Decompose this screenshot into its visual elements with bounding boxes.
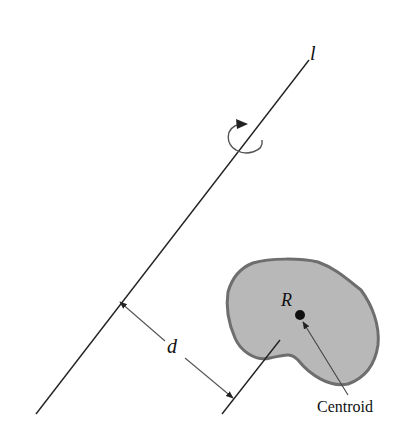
distance-arrow-left [120,302,165,341]
axis-line [36,60,309,414]
distance-arrow-right [185,358,233,398]
rotation-arrow-icon [228,119,262,153]
centroid-dot [295,310,305,320]
centroid-label: Centroid [317,398,373,416]
diagram-svg [0,0,418,442]
distance-label: d [167,335,177,358]
axis-label: l [310,42,316,65]
diagram-canvas: l R d Centroid [0,0,418,442]
region-r [227,259,378,385]
region-label: R [281,290,292,311]
